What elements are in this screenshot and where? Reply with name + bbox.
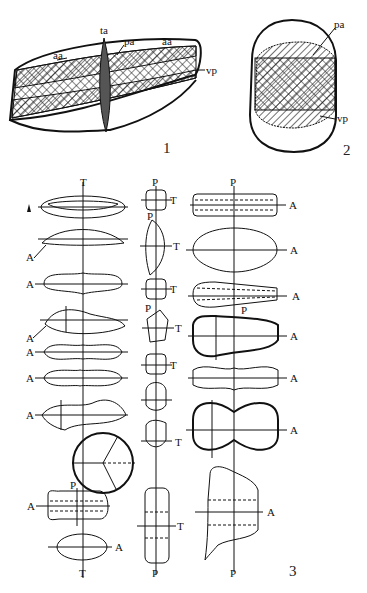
right-col-bottom-P: P: [230, 567, 236, 579]
label-aa-left: aa: [53, 49, 63, 61]
left-row-A-1: A: [26, 251, 34, 263]
left-label-A-bottom: A: [115, 541, 123, 553]
label-pa: pa: [124, 35, 135, 47]
panel-number-3: 3: [289, 563, 297, 579]
label-ta: ta: [100, 24, 108, 36]
middle-label-P-inner-1: P: [147, 210, 153, 222]
arrow-up-icon: [27, 204, 31, 212]
right-label-A-5: A: [290, 372, 298, 384]
left-row-A-4: A: [26, 346, 34, 358]
middle-label-T-1: T: [170, 194, 177, 206]
panel-number-1: 1: [163, 140, 171, 156]
left-row-A-3: A: [26, 332, 34, 344]
panel-2-cross-section: [250, 20, 336, 152]
right-label-A-2: A: [290, 244, 298, 256]
middle-label-T-2: T: [173, 240, 180, 252]
right-label-A-7: A: [267, 506, 275, 518]
right-label-A-3: A: [292, 290, 300, 302]
right-label-A-4: A: [290, 330, 298, 342]
middle-col-bottom-P: P: [152, 567, 158, 579]
panel-1-frustule-3d: [10, 38, 205, 132]
middle-label-T-4: T: [175, 322, 182, 334]
label-vp-1: vp: [206, 64, 218, 76]
label-aa-right: aa: [162, 35, 172, 47]
panel-number-2: 2: [343, 142, 351, 158]
right-label-P-inner: P: [241, 304, 247, 316]
middle-col-top-P: P: [152, 176, 158, 188]
label-pa-2: pa: [334, 18, 345, 30]
middle-label-T-6: T: [175, 436, 182, 448]
left-column-valves: [33, 196, 135, 560]
label-vp-2: vp: [337, 112, 349, 124]
right-label-A-6: A: [290, 424, 298, 436]
diatom-morphology-diagram: ta pa aa aa vp 1 pa vp 2 T: [0, 0, 367, 593]
middle-label-T-7: T: [177, 520, 184, 532]
right-col-top-P: P: [230, 176, 236, 188]
left-row-A-2: A: [26, 278, 34, 290]
middle-label-T-5: T: [170, 359, 177, 371]
left-row-A-7: A: [27, 500, 35, 512]
left-col-top-T: T: [80, 176, 87, 188]
middle-label-P-inner-2: P: [145, 302, 151, 314]
left-label-P: P: [70, 479, 76, 491]
right-label-A-1: A: [289, 199, 297, 211]
left-row-A-5: A: [26, 372, 34, 384]
left-row-A-6: A: [26, 409, 34, 421]
middle-label-T-3: T: [170, 283, 177, 295]
left-col-bottom-T: T: [79, 567, 86, 579]
